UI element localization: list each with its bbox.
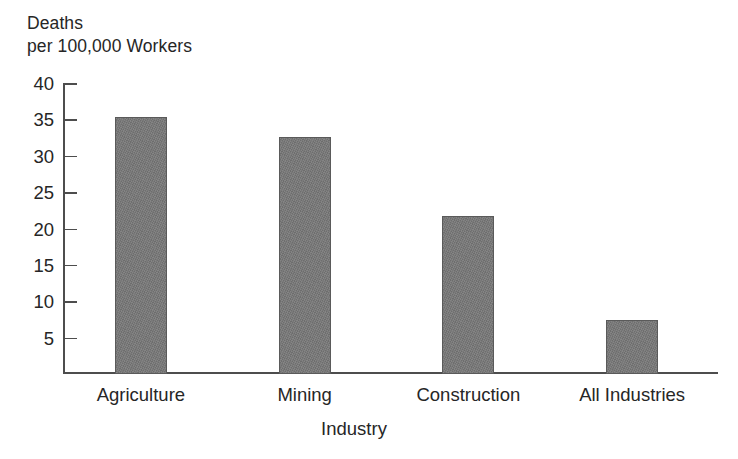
bar [279, 137, 331, 374]
x-axis-title: Industry [0, 420, 738, 439]
bar [606, 320, 658, 374]
x-axis-tick-labels: AgricultureMiningConstructionAll Industr… [63, 386, 718, 412]
x-axis-tick-label: Mining [277, 386, 332, 405]
y-axis-tick-label: 40 [33, 75, 54, 94]
y-axis-title: Deaths per 100,000 Workers [27, 12, 192, 58]
y-axis-tick-label: 15 [33, 257, 54, 276]
y-axis-tick-label: 35 [33, 111, 54, 130]
x-axis-tick-label: Construction [416, 386, 520, 405]
bar [442, 216, 494, 374]
x-axis-tick-label: All Industries [579, 386, 685, 405]
bar-series [63, 83, 718, 374]
y-axis-tick-label: 25 [33, 184, 54, 203]
y-axis-tick-label: 30 [33, 148, 54, 167]
plot-area: 510152025303540 [63, 83, 718, 374]
chart-figure: Deaths per 100,000 Workers 5101520253035… [0, 0, 738, 459]
y-axis-tick-label: 20 [33, 220, 54, 239]
bar [115, 117, 167, 374]
x-axis-title-text: Industry [321, 418, 387, 439]
y-axis-title-line-2: per 100,000 Workers [27, 35, 192, 58]
y-axis-tick-label: 5 [44, 329, 54, 348]
x-axis-tick-label: Agriculture [97, 386, 185, 405]
y-axis-title-line-1: Deaths [27, 12, 192, 35]
y-axis-tick-label: 10 [33, 293, 54, 312]
